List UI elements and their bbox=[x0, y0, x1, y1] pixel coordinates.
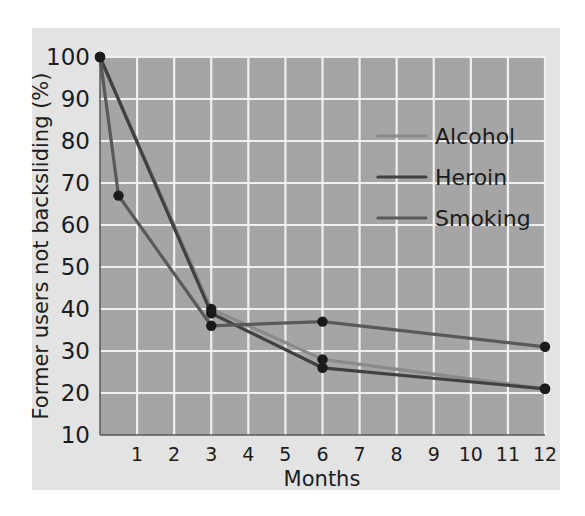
line-chart: 102030405060708090100 123456789101112 Mo… bbox=[0, 0, 585, 516]
x-axis-tick-label: 5 bbox=[279, 443, 291, 465]
data-point-marker bbox=[317, 316, 327, 326]
data-point-marker bbox=[206, 321, 216, 331]
y-axis-tick-label: 50 bbox=[61, 254, 90, 280]
legend-label-smoking: Smoking bbox=[435, 206, 531, 231]
y-axis-tick-label: 60 bbox=[61, 212, 90, 238]
x-axis-tick-label: 3 bbox=[205, 443, 217, 465]
x-axis-tick-label: 10 bbox=[459, 443, 483, 465]
data-point-marker bbox=[540, 342, 550, 352]
y-axis-tick-label: 70 bbox=[61, 170, 90, 196]
data-point-marker bbox=[113, 190, 123, 200]
legend-label-heroin: Heroin bbox=[435, 165, 507, 190]
x-axis-title: Months bbox=[284, 467, 361, 491]
x-axis-tick-label: 1 bbox=[131, 443, 143, 465]
data-point-marker bbox=[540, 384, 550, 394]
x-axis-tick-label: 7 bbox=[354, 443, 366, 465]
y-axis-tick-label: 100 bbox=[46, 44, 90, 70]
y-axis-tick-label: 80 bbox=[61, 128, 90, 154]
y-axis-tick-label: 40 bbox=[61, 296, 90, 322]
data-point-marker bbox=[206, 308, 216, 318]
y-axis-tick-label: 90 bbox=[61, 86, 90, 112]
data-point-marker bbox=[95, 52, 105, 62]
x-axis-tick-label: 6 bbox=[316, 443, 328, 465]
x-axis-tick-label: 4 bbox=[242, 443, 254, 465]
x-axis-tick-label: 8 bbox=[391, 443, 403, 465]
x-axis-tick-label: 12 bbox=[533, 443, 557, 465]
y-axis-tick-label: 20 bbox=[61, 380, 90, 406]
x-axis-tick-label: 11 bbox=[496, 443, 520, 465]
data-point-marker bbox=[317, 363, 327, 373]
x-axis-tick-label: 9 bbox=[428, 443, 440, 465]
y-axis-title: Former users not backsliding (%) bbox=[29, 73, 53, 420]
x-axis-tick-label: 2 bbox=[168, 443, 180, 465]
x-axis-tick-labels: 123456789101112 bbox=[131, 443, 557, 465]
y-axis-tick-label: 30 bbox=[61, 338, 90, 364]
y-axis-tick-label: 10 bbox=[61, 422, 90, 448]
legend-label-alcohol: Alcohol bbox=[435, 124, 515, 149]
